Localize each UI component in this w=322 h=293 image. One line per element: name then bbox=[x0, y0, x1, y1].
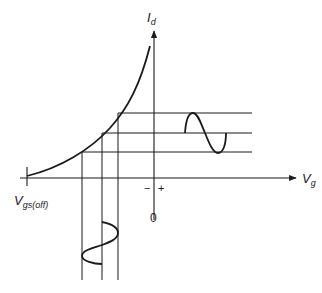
plus-sign: + bbox=[158, 182, 164, 194]
jfet-transfer-diagram: Id Vg Vgs(off) − + 0 bbox=[0, 0, 322, 293]
minus-sign: − bbox=[144, 182, 150, 194]
pinchoff-label: Vgs(off) bbox=[14, 193, 48, 210]
y-axis-label: Id bbox=[147, 10, 157, 27]
origin-label: 0 bbox=[150, 211, 157, 225]
input-sine-wave bbox=[82, 222, 118, 264]
transfer-curve bbox=[27, 46, 150, 176]
x-axis-label: Vg bbox=[302, 171, 316, 188]
